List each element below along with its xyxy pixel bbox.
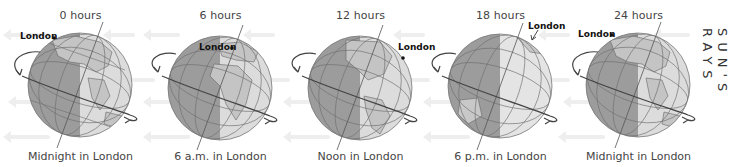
- london-marker-label: London: [578, 29, 615, 39]
- london-marker-label: London: [20, 31, 57, 41]
- globe-icon: [558, 0, 703, 167]
- globe-icon: [280, 0, 425, 167]
- time-caption: Midnight in London: [8, 150, 153, 163]
- panel-6-hours: 6 hours London 6 a.m. in London: [140, 0, 285, 167]
- panel-12-hours: 12 hours London Noon in London: [280, 0, 425, 167]
- time-caption: Noon in London: [288, 150, 433, 163]
- panel-0-hours: 0 hours London Midnight in London: [0, 0, 145, 167]
- hours-label: 6 hours: [148, 9, 293, 22]
- panel-24-hours: 24 hours London Midnight in London: [558, 0, 703, 167]
- sun-rays-label: SUN'S RAYS: [700, 28, 722, 158]
- time-caption: Midnight in London: [566, 150, 711, 163]
- hours-label: 24 hours: [566, 9, 711, 22]
- time-caption: 6 a.m. in London: [148, 150, 293, 163]
- globe-icon: [0, 0, 145, 167]
- sun-rays-text: SUN'S RAYS: [700, 28, 730, 158]
- london-marker-label: London: [199, 42, 236, 52]
- globe-icon: [140, 0, 285, 167]
- panel-18-hours: 18 hours London 6 p.m. in London: [420, 0, 565, 167]
- hours-label: 0 hours: [8, 9, 153, 22]
- time-caption: 6 p.m. in London: [428, 150, 573, 163]
- hours-label: 12 hours: [288, 9, 433, 22]
